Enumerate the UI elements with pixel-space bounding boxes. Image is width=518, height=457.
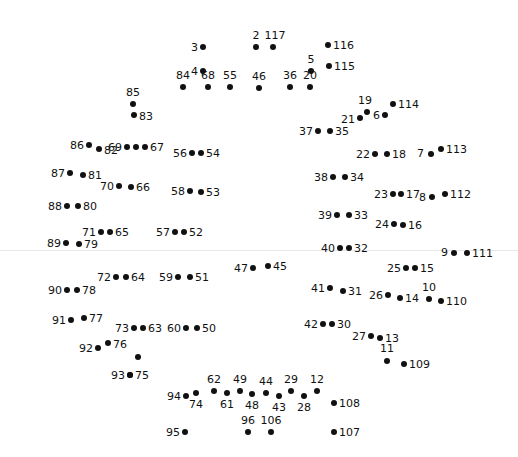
puzzle-dot-number: 111: [472, 248, 493, 259]
puzzle-dot-number: 78: [82, 285, 96, 296]
puzzle-dot: [400, 222, 406, 228]
puzzle-dot: [105, 340, 111, 346]
puzzle-dot-number: 85: [126, 87, 140, 98]
puzzle-dot: [227, 84, 233, 90]
puzzle-dot-number: 14: [405, 293, 419, 304]
puzzle-dot-number: 17: [406, 189, 420, 200]
puzzle-dot: [412, 265, 418, 271]
puzzle-dot-number: 55: [223, 70, 237, 81]
puzzle-dot: [182, 429, 188, 435]
puzzle-dot-number: 76: [113, 339, 127, 350]
puzzle-dot-number: 26: [369, 290, 383, 301]
puzzle-dot-number: 46: [252, 71, 266, 82]
puzzle-dot-number: 31: [348, 286, 362, 297]
puzzle-dot-number: 83: [139, 111, 153, 122]
puzzle-dot-number: 94: [167, 391, 181, 402]
puzzle-dot: [342, 174, 348, 180]
puzzle-dot-number: 67: [150, 142, 164, 153]
puzzle-dot: [142, 144, 148, 150]
puzzle-dot: [75, 203, 81, 209]
puzzle-dot: [442, 191, 448, 197]
puzzle-dot: [113, 274, 119, 280]
puzzle-dot-number: 22: [356, 149, 370, 160]
puzzle-dot-number: 89: [47, 238, 61, 249]
puzzle-dot: [314, 388, 320, 394]
puzzle-dot: [331, 429, 337, 435]
puzzle-dot-number: 37: [299, 126, 313, 137]
puzzle-dot-number: 7: [417, 148, 424, 159]
puzzle-dot: [205, 84, 211, 90]
puzzle-dot-number: 79: [84, 239, 98, 250]
connect-the-dots-canvas: 3211711611554846855463620858311419621373…: [0, 0, 518, 457]
puzzle-dot: [325, 42, 331, 48]
puzzle-dot: [116, 183, 122, 189]
puzzle-dot-number: 47: [234, 263, 248, 274]
puzzle-dot-number: 53: [206, 187, 220, 198]
puzzle-dot: [189, 150, 195, 156]
puzzle-dot-number: 65: [115, 227, 129, 238]
puzzle-dot: [86, 142, 92, 148]
puzzle-dot-number: 87: [51, 168, 65, 179]
puzzle-dot-number: 39: [318, 210, 332, 221]
puzzle-dot: [81, 315, 87, 321]
puzzle-dot: [327, 128, 333, 134]
puzzle-dot: [140, 325, 146, 331]
puzzle-dot: [250, 265, 256, 271]
puzzle-dot-number: 59: [159, 272, 173, 283]
puzzle-dot-number: 108: [339, 398, 360, 409]
puzzle-dot-number: 77: [89, 313, 103, 324]
puzzle-dot: [429, 194, 435, 200]
puzzle-dot: [194, 325, 200, 331]
puzzle-dot: [382, 112, 388, 118]
puzzle-dot: [245, 429, 251, 435]
puzzle-dot: [426, 296, 432, 302]
puzzle-dot-number: 95: [166, 427, 180, 438]
puzzle-dot-number: 115: [334, 61, 355, 72]
puzzle-dot-number: 106: [261, 415, 282, 426]
puzzle-dot-number: 27: [352, 331, 366, 342]
puzzle-dot-number: 32: [354, 243, 368, 254]
puzzle-dot: [346, 245, 352, 251]
puzzle-dot: [123, 274, 129, 280]
puzzle-dot: [127, 372, 133, 378]
puzzle-dot-number: 88: [48, 201, 62, 212]
puzzle-dot-number: 58: [171, 186, 185, 197]
puzzle-dot: [330, 174, 336, 180]
puzzle-dot: [249, 391, 255, 397]
puzzle-dot-number: 68: [201, 70, 215, 81]
puzzle-dot-number: 66: [136, 182, 150, 193]
puzzle-dot-number: 18: [392, 149, 406, 160]
puzzle-dot: [368, 333, 374, 339]
puzzle-dot-number: 11: [380, 343, 394, 354]
puzzle-dot: [128, 184, 134, 190]
puzzle-dot: [288, 388, 294, 394]
puzzle-dot-number: 30: [337, 319, 351, 330]
puzzle-dot: [451, 250, 457, 256]
puzzle-dot: [211, 388, 217, 394]
puzzle-dot: [76, 241, 82, 247]
puzzle-dot-number: 19: [358, 95, 372, 106]
puzzle-dot-number: 21: [341, 114, 355, 125]
puzzle-dot-number: 75: [135, 370, 149, 381]
puzzle-dot: [287, 84, 293, 90]
puzzle-dot: [187, 188, 193, 194]
puzzle-dot: [391, 221, 397, 227]
puzzle-dot-number: 3: [191, 42, 198, 53]
puzzle-dot: [337, 245, 343, 251]
puzzle-dot-number: 61: [220, 399, 234, 410]
puzzle-dot: [124, 144, 130, 150]
puzzle-dot-number: 9: [441, 247, 448, 258]
puzzle-dot: [198, 189, 204, 195]
puzzle-dot: [175, 274, 181, 280]
puzzle-dot: [320, 321, 326, 327]
puzzle-dot: [198, 150, 204, 156]
puzzle-dot-number: 10: [422, 282, 436, 293]
puzzle-dot: [326, 63, 332, 69]
puzzle-dot-number: 36: [283, 70, 297, 81]
puzzle-dot-number: 90: [48, 285, 62, 296]
puzzle-dot-number: 64: [131, 272, 145, 283]
puzzle-dot: [438, 298, 444, 304]
puzzle-dot: [67, 170, 73, 176]
puzzle-dot-number: 41: [311, 283, 325, 294]
puzzle-dot: [80, 172, 86, 178]
